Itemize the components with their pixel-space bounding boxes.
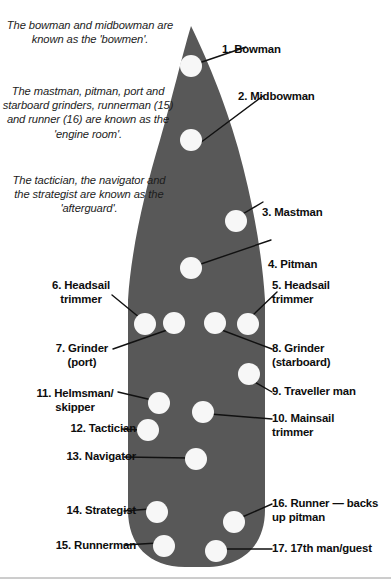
crew-label-helmsman-skipper: 11. Helmsman/ skipper bbox=[14, 386, 136, 415]
crew-label-mainsail-trimmer: 10. Mainsail trimmer bbox=[272, 411, 390, 440]
crew-label-grinder-starboard: 8. Grinder (starboard) bbox=[272, 341, 390, 370]
yacht-crew-diagram: The bowman and midbowman are known as th… bbox=[0, 0, 391, 581]
crew-dot-2 bbox=[180, 129, 202, 151]
crew-dot-3 bbox=[225, 210, 247, 232]
crew-dot-5 bbox=[237, 313, 259, 335]
crew-dot-7 bbox=[163, 312, 185, 334]
crew-label-grinder-port: 7. Grinder (port) bbox=[26, 341, 138, 370]
crew-dot-1 bbox=[180, 55, 202, 77]
crew-dot-12 bbox=[137, 419, 159, 441]
note-bowmen: The bowman and midbowman are known as th… bbox=[4, 18, 176, 46]
crew-dot-8 bbox=[204, 312, 226, 334]
crew-dot-17 bbox=[205, 540, 227, 562]
crew-label-midbowman: 2. Midbowman bbox=[238, 89, 388, 103]
crew-label-headsail-trimmer-5: 5. Headsail trimmer bbox=[272, 278, 390, 307]
crew-dot-13 bbox=[185, 448, 207, 470]
crew-dot-6 bbox=[134, 313, 156, 335]
crew-label-traveller-man: 9. Traveller man bbox=[272, 384, 390, 398]
crew-label-bowman: 1. Bowman bbox=[222, 42, 372, 56]
note-engine-room: The mastman, pitman, port and starboard … bbox=[2, 84, 174, 141]
crew-dot-14 bbox=[146, 501, 168, 523]
note-afterguard: The tactician, the navigator and the str… bbox=[6, 173, 172, 216]
crew-dot-11 bbox=[148, 392, 170, 414]
crew-label-pitman: 4. Pitman bbox=[268, 257, 390, 271]
crew-dot-9 bbox=[238, 363, 260, 385]
crew-label-strategist: 14. Strategist bbox=[18, 503, 136, 517]
crew-label-mastman: 3. Mastman bbox=[262, 205, 390, 219]
crew-dot-10 bbox=[192, 401, 214, 423]
crew-label-headsail-trimmer-6: 6. Headsail trimmer bbox=[22, 278, 140, 307]
crew-label-tactician: 12. Tactician bbox=[20, 421, 136, 435]
crew-label-runner: 16. Runner — backs up pitman bbox=[272, 496, 391, 525]
crew-label-runnerman: 15. Runnerman bbox=[12, 538, 136, 552]
crew-dot-16 bbox=[223, 511, 245, 533]
crew-dot-4 bbox=[180, 257, 202, 279]
crew-label-navigator: 13. Navigator bbox=[18, 449, 136, 463]
crew-dot-15 bbox=[153, 535, 175, 557]
crew-label-17th-man-guest: 17. 17th man/guest bbox=[272, 541, 391, 555]
